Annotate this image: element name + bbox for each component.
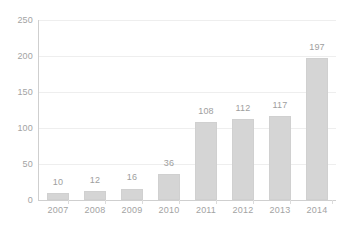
x-tick-mark xyxy=(253,200,254,204)
x-axis-label-2014: 2014 xyxy=(307,205,328,215)
bar-value-2008: 12 xyxy=(90,175,100,185)
bar-2007 xyxy=(47,193,69,200)
bar-value-2014: 197 xyxy=(309,42,325,52)
x-tick-mark xyxy=(105,200,106,204)
x-tick-mark xyxy=(290,200,291,204)
gridline xyxy=(38,164,336,165)
y-tick-label: 0 xyxy=(28,195,33,205)
x-axis-label-2007: 2007 xyxy=(48,205,69,215)
gridline xyxy=(38,20,336,21)
bar-value-2007: 10 xyxy=(53,177,63,187)
x-tick-mark xyxy=(216,200,217,204)
gridline xyxy=(38,128,336,129)
x-axis-label-2010: 2010 xyxy=(159,205,180,215)
x-axis-label-2013: 2013 xyxy=(270,205,291,215)
bar-2012 xyxy=(232,119,254,200)
y-axis-line xyxy=(38,20,39,201)
bar-2014 xyxy=(306,58,328,200)
x-tick-mark xyxy=(142,200,143,204)
bar-chart: 250 200 150 100 50 0 10 12 16 36 108 112 xyxy=(0,0,350,233)
x-axis-label-2012: 2012 xyxy=(233,205,254,215)
bar-value-2013: 117 xyxy=(273,100,288,110)
bar-2008 xyxy=(84,191,106,200)
y-tick-label: 150 xyxy=(17,87,33,97)
bar-2010 xyxy=(158,174,180,200)
x-axis-label-2009: 2009 xyxy=(122,205,143,215)
y-tick-label: 100 xyxy=(17,123,33,133)
x-axis-line xyxy=(38,200,336,201)
bar-2009 xyxy=(121,189,143,201)
gridline xyxy=(38,92,336,93)
y-axis-tick-labels: 250 200 150 100 50 0 xyxy=(0,0,33,233)
bar-value-2009: 16 xyxy=(127,172,137,182)
y-tick-label: 250 xyxy=(17,15,33,25)
bar-value-2012: 112 xyxy=(236,103,251,113)
x-axis-label-2011: 2011 xyxy=(196,205,216,215)
bar-value-2010: 36 xyxy=(164,158,174,168)
y-tick-label: 50 xyxy=(23,159,33,169)
x-tick-mark xyxy=(332,200,333,204)
bar-2011 xyxy=(195,122,217,200)
y-tick-label: 200 xyxy=(17,51,33,61)
gridline xyxy=(38,56,336,57)
x-axis-label-2008: 2008 xyxy=(85,205,106,215)
plot-area xyxy=(38,20,336,200)
x-tick-mark xyxy=(68,200,69,204)
bar-value-2011: 108 xyxy=(198,106,214,116)
x-tick-mark xyxy=(179,200,180,204)
bar-2013 xyxy=(269,116,291,200)
